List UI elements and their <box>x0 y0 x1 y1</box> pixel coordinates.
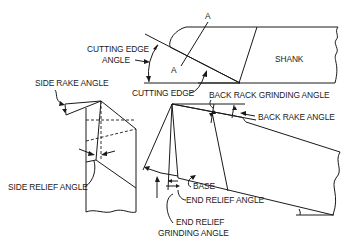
cutting-edge-line <box>145 34 240 83</box>
arrowhead <box>88 151 95 156</box>
side-rake-face <box>65 101 101 115</box>
arrowhead <box>101 151 107 156</box>
hidden-line <box>86 129 136 141</box>
arrowhead <box>240 111 246 116</box>
base-label: BASE <box>193 181 215 191</box>
end-relief-grinding-angle-label-line2: GRINDING ANGLE <box>158 228 229 238</box>
shank-label: SHANK <box>275 54 304 64</box>
side-rake-angle-label: SIDE RAKE ANGLE <box>35 78 109 88</box>
end-relief-angle-leader <box>178 190 186 200</box>
back-rake-angle-label: BACK RAKE ANGLE <box>258 112 335 122</box>
base-angle-arc <box>299 209 300 215</box>
arrowhead <box>59 101 65 106</box>
arrowhead <box>176 184 180 188</box>
section-label-a-bottom: A <box>171 65 177 75</box>
cutting-tool-diagram: A A CUTTING EDGE ANGLE SHANK CUTTING EDG… <box>0 0 349 241</box>
end-relief-grinding-line <box>143 104 172 170</box>
end-relief-grinding-leader <box>167 194 173 223</box>
side-relief-angle-label: SIDE RELIEF ANGLE <box>8 182 88 192</box>
section-body-outline <box>86 101 136 212</box>
top-view <box>135 22 338 93</box>
nose-front-edge <box>168 104 172 190</box>
back-rack-grinding-angle-label: BACK RACK GRINDING ANGLE <box>209 90 330 100</box>
tool-end-break <box>333 152 340 215</box>
face-divider-line <box>212 112 228 191</box>
end-relief-angle-label: END RELIEF ANGLE <box>186 195 265 205</box>
end-relief-grinding-angle-label-line1: END RELIEF <box>176 217 224 227</box>
diagram-canvas: A A CUTTING EDGE ANGLE SHANK CUTTING EDG… <box>0 0 349 241</box>
nose-face-edge <box>172 104 178 178</box>
side-relief-face <box>96 101 101 160</box>
shank-divider <box>239 27 257 83</box>
cutting-edge-label: CUTTING EDGE <box>132 88 195 98</box>
side-section-view <box>55 90 136 212</box>
arrowhead <box>202 70 207 77</box>
arrowhead <box>153 44 158 50</box>
end-relief-grinding-arc <box>146 168 178 176</box>
section-label-a-top: A <box>205 11 211 21</box>
cutting-edge-angle-label-line2: ANGLE <box>102 55 130 65</box>
cutting-edge-angle-label-line1: CUTTING EDGE <box>87 44 150 54</box>
section-bottom-diagonal <box>96 160 136 188</box>
arrowhead <box>232 106 237 110</box>
